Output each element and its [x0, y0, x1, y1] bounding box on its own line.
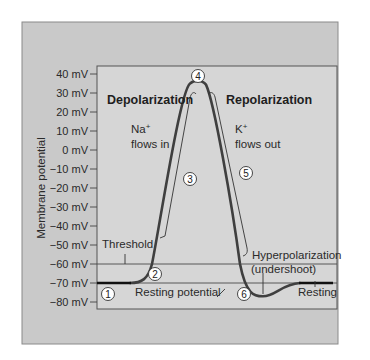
step-6-marker: 6 [238, 288, 251, 301]
y-tick-label: −40 mV [50, 220, 89, 232]
step-1-marker: 1 [102, 288, 115, 301]
y-axis-title: Membrane potential [35, 137, 47, 239]
y-tick-label: 0 mV [62, 144, 88, 156]
threshold-label: Threshold [102, 238, 153, 250]
step-4-number: 4 [195, 71, 201, 82]
y-tick-label: 30 mV [56, 87, 88, 99]
y-tick-label: −20 mV [50, 182, 89, 194]
step-5-marker: 5 [240, 167, 253, 180]
action-potential-diagram: Membrane potential 40 mV30 mV20 mV10 mV0… [0, 0, 370, 360]
y-tick-label: 40 mV [56, 68, 88, 80]
hyperpolarization-label: Hyperpolarization [252, 249, 342, 261]
depolarization-title: Depolarization [107, 93, 193, 107]
y-tick-label: −60 mV [50, 258, 89, 270]
resting-label: Resting [298, 286, 337, 298]
y-tick-label: 10 mV [56, 125, 88, 137]
y-tick-label: −80 mV [50, 296, 89, 308]
step-2-marker: 2 [149, 268, 162, 281]
step-5-number: 5 [243, 168, 249, 179]
step-3-marker: 3 [184, 173, 197, 186]
step-6-number: 6 [241, 289, 247, 300]
y-tick-label: −10 mV [50, 163, 89, 175]
y-tick-label: 20 mV [56, 106, 88, 118]
step-3-number: 3 [187, 174, 193, 185]
step-1-number: 1 [105, 289, 111, 300]
y-tick-label: −50 mV [50, 239, 89, 251]
step-2-number: 2 [152, 269, 158, 280]
undershoot-label: (undershoot) [251, 263, 316, 275]
step-4-marker: 4 [192, 70, 205, 83]
k-flows-out: flows out [235, 138, 281, 150]
y-tick-label: −30 mV [50, 201, 89, 213]
resting-potential-label: Resting potential [135, 286, 221, 298]
na-flows-in: flows in [131, 138, 169, 150]
repolarization-title: Repolarization [226, 93, 312, 107]
y-tick-label: −70 mV [50, 277, 89, 289]
